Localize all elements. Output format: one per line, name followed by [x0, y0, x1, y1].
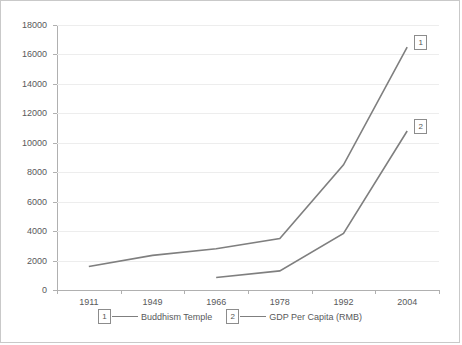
- chart-legend: 1Buddhism Temple2GDP Per Capita (RMB): [1, 309, 459, 324]
- x-axis-tick-mark: [439, 290, 440, 294]
- chart-container: 0200040006000800010000120001400016000180…: [0, 0, 460, 343]
- y-axis-tick-label: 10000: [22, 138, 47, 148]
- y-axis-tick-label: 8000: [27, 167, 47, 177]
- series-lines: [57, 25, 439, 290]
- x-axis-tick-mark: [248, 290, 249, 294]
- y-axis-tick-label: 12000: [22, 108, 47, 118]
- x-axis-tick-mark: [57, 290, 58, 294]
- x-axis-tick-label: 1992: [321, 297, 367, 307]
- x-axis-tick-label: 1911: [66, 297, 112, 307]
- series-line: [216, 131, 407, 277]
- legend-item-label: GDP Per Capita (RMB): [269, 312, 362, 322]
- y-axis-tick-label: 4000: [27, 226, 47, 236]
- y-axis-tick-labels: 0200040006000800010000120001400016000180…: [1, 25, 53, 291]
- legend-item-label: Buddhism Temple: [141, 312, 212, 322]
- y-axis-tick-label: 14000: [22, 79, 47, 89]
- x-axis-tick-label: 1949: [130, 297, 176, 307]
- x-axis-tick-mark: [375, 290, 376, 294]
- legend-key-marker: 1: [98, 309, 111, 324]
- legend-line-swatch: [112, 316, 138, 317]
- y-axis-tick-label: 6000: [27, 197, 47, 207]
- y-axis-tick-label: 2000: [27, 256, 47, 266]
- plot-area: 12: [57, 25, 439, 290]
- x-axis-tick-label: 1978: [257, 297, 303, 307]
- x-axis-tick-label: 1966: [193, 297, 239, 307]
- series-key-marker: 1: [414, 35, 427, 50]
- x-axis-tick-mark: [312, 290, 313, 294]
- legend-item[interactable]: 1Buddhism Temple: [98, 309, 212, 324]
- legend-item[interactable]: 2GDP Per Capita (RMB): [226, 309, 362, 324]
- x-axis-tick-label: 2004: [384, 297, 430, 307]
- series-key-marker: 2: [414, 119, 427, 134]
- y-axis-tick-label: 0: [42, 285, 47, 295]
- x-axis-tick-mark: [184, 290, 185, 294]
- y-axis-tick-label: 18000: [22, 20, 47, 30]
- series-line: [89, 47, 407, 266]
- y-axis-tick-label: 16000: [22, 49, 47, 59]
- x-axis-tick-mark: [121, 290, 122, 294]
- legend-line-swatch: [240, 316, 266, 317]
- legend-key-marker: 2: [226, 309, 239, 324]
